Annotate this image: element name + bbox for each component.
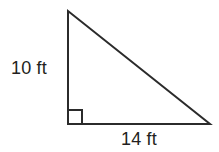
right-angle-square-icon (68, 110, 82, 124)
triangle-figure: 10 ft 14 ft (0, 0, 219, 152)
right-triangle-outline (68, 11, 210, 124)
horizontal-leg-label: 14 ft (121, 130, 157, 149)
vertical-leg-label: 10 ft (11, 59, 47, 78)
